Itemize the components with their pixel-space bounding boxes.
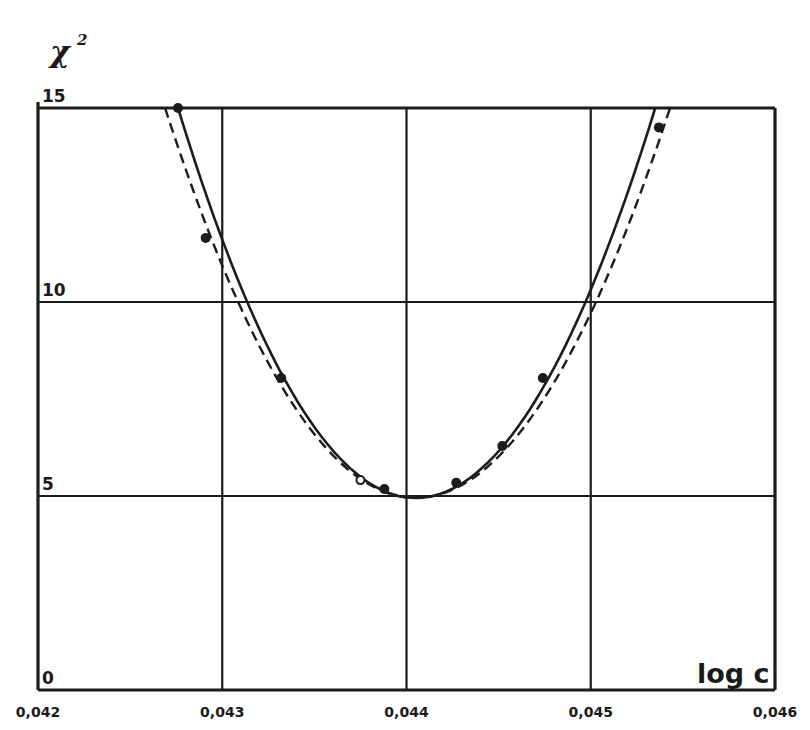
x-tick-label: 0,046 bbox=[753, 704, 797, 720]
open-data-point bbox=[356, 476, 364, 484]
data-point bbox=[276, 373, 286, 383]
y-tick-label: 15 bbox=[42, 86, 66, 106]
data-point bbox=[379, 484, 389, 494]
x-tick-label: 0,044 bbox=[384, 704, 429, 720]
gridlines bbox=[38, 108, 775, 690]
x-axis-label: log c bbox=[697, 658, 770, 689]
data-point bbox=[654, 122, 664, 132]
y-axis-label: χ bbox=[48, 34, 72, 69]
data-point bbox=[201, 233, 211, 243]
y-tick-label: 5 bbox=[42, 474, 54, 494]
data-point bbox=[451, 478, 461, 488]
data-point bbox=[173, 103, 183, 113]
data-point bbox=[497, 441, 507, 451]
x-tick-label: 0,042 bbox=[16, 704, 60, 720]
y-tick-label: 10 bbox=[42, 280, 66, 300]
y-tick-label: 0 bbox=[42, 668, 54, 688]
x-tick-label: 0,045 bbox=[569, 704, 613, 720]
data-point bbox=[538, 373, 548, 383]
x-tick-label: 0,043 bbox=[200, 704, 244, 720]
y-axis-label-superscript: 2 bbox=[76, 31, 87, 49]
chi-square-chart: 0,0420,0430,0440,0450,046051015 χ 2 log … bbox=[0, 0, 810, 730]
